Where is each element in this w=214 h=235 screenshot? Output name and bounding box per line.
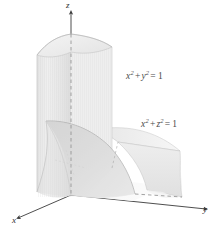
eq-xy-value: 1	[157, 71, 164, 81]
eq-xz-value: 1	[171, 119, 178, 129]
equation-label-xz-cylinder: x2+z2=1	[141, 119, 178, 129]
equation-label-xy-cylinder: x2+y2=1	[126, 71, 164, 81]
z-axis-label: z	[66, 0, 70, 10]
cylinders-diagram	[0, 0, 214, 235]
eq-xy-eq: =	[149, 71, 157, 81]
figure-container: x2+y2=1 x2+z2=1 z y x	[0, 0, 214, 235]
y-axis-label: y	[203, 204, 207, 214]
x-axis-line	[18, 195, 71, 218]
x-axis-label: x	[12, 215, 16, 225]
